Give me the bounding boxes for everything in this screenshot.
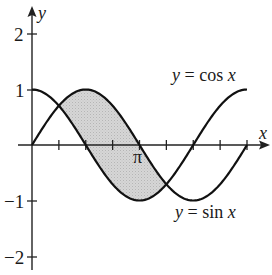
y-axis-label: y [36, 3, 46, 23]
y-tick-label-2: 2 [14, 24, 24, 45]
x-axis [18, 141, 270, 150]
y-tick-label-neg2: −2 [4, 247, 24, 268]
x-axis-label: x [258, 123, 267, 143]
y-tick-label-1: 1 [15, 80, 25, 101]
sin-equation-label: y = sin x [173, 202, 236, 222]
cos-equation-label: y = cos x [170, 65, 236, 85]
x-tick-label-pi: π [133, 147, 142, 167]
y-tick-label-neg1: −1 [4, 191, 24, 212]
chart: y x 2 1 −1 −2 π y = cos x y = sin x [0, 0, 272, 275]
